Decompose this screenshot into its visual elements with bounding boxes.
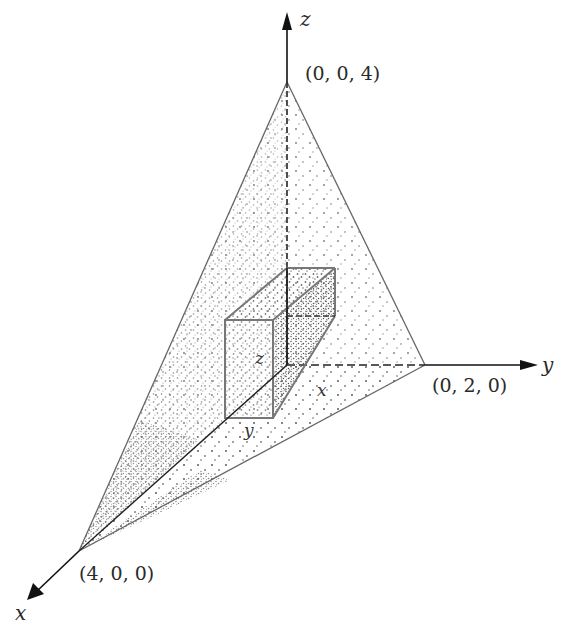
- x-intercept-label: (4, 0, 0): [79, 562, 154, 584]
- z-axis-arrow-icon: [282, 12, 292, 30]
- x-axis-arrow-icon: [27, 583, 44, 600]
- tetrahedron-box-diagram: z y x (0, 0, 4) (0, 2, 0) (4, 0, 0) z y …: [0, 0, 568, 635]
- z-intercept-label: (0, 0, 4): [305, 62, 380, 84]
- y-axis-label: y: [541, 353, 554, 377]
- x-axis-label: x: [15, 601, 26, 625]
- box-front-face-lighten: [225, 320, 273, 418]
- box-height-label: z: [254, 348, 265, 368]
- y-axis-arrow-icon: [520, 360, 538, 370]
- box-width-label: y: [243, 420, 254, 440]
- y-intercept-label: (0, 2, 0): [432, 374, 507, 396]
- box-depth-label: x: [317, 380, 327, 400]
- z-axis-label: z: [299, 7, 311, 31]
- x-axis: [36, 551, 79, 592]
